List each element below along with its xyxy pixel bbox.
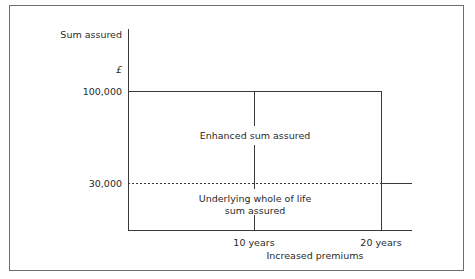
underlying-label-line1: Underlying whole of life: [180, 193, 330, 204]
x-axis-title: Increased premiums: [255, 250, 375, 261]
underlying-label-line2: sum assured: [180, 205, 330, 216]
y-axis-title: Sum assured: [30, 29, 122, 40]
enhanced-sum-assured-label: Enhanced sum assured: [180, 130, 330, 141]
y-unit: £: [30, 64, 122, 75]
y-tick-30000: 30,000: [30, 178, 122, 189]
x-tick-10-years: 10 years: [214, 237, 294, 248]
x-tick-20-years: 20 years: [340, 237, 422, 248]
y-tick-100000: 100,000: [30, 86, 122, 97]
